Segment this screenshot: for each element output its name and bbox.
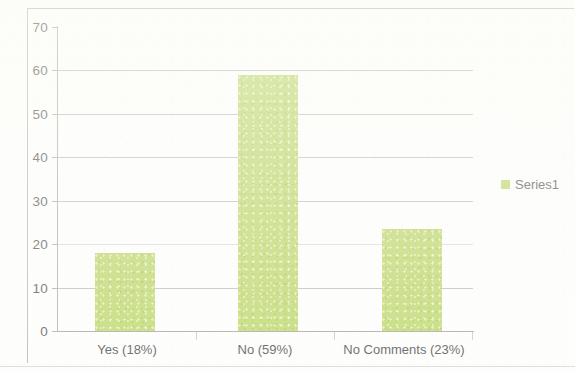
x-axis-separator-1 <box>196 331 197 340</box>
y-tick-label-30: 30 <box>22 195 48 209</box>
x-axis-separator-3 <box>472 331 473 340</box>
y-tick-label-60: 60 <box>22 64 48 78</box>
legend-label-series1: Series1 <box>515 178 559 191</box>
x-label-yes: Yes (18%) <box>58 343 196 356</box>
bar-no-comments <box>382 229 442 331</box>
y-tick-label-70: 70 <box>22 21 48 35</box>
legend-swatch-icon <box>501 180 510 189</box>
bar-no <box>238 75 298 331</box>
gridline-60 <box>58 70 473 71</box>
y-axis-tick-labels: 70 60 50 40 30 20 10 0 <box>18 0 48 372</box>
chart-legend: Series1 <box>501 178 559 191</box>
page-bottom-rule <box>0 366 575 367</box>
bar-yes <box>95 253 155 331</box>
x-label-no: No (59%) <box>196 343 334 356</box>
chart-screenshot: 70 60 50 40 30 20 10 0 Yes (18%) No (59%… <box>0 0 575 372</box>
x-axis-separator-2 <box>334 331 335 340</box>
y-tick-label-10: 10 <box>22 282 48 296</box>
x-axis-line <box>58 331 474 332</box>
y-tick-label-20: 20 <box>22 238 48 252</box>
y-tick-label-0: 0 <box>22 325 48 339</box>
x-label-no-comments: No Comments (23%) <box>334 343 474 356</box>
y-tick-label-40: 40 <box>22 151 48 165</box>
plot-area <box>58 27 473 331</box>
y-tick-label-50: 50 <box>22 108 48 122</box>
